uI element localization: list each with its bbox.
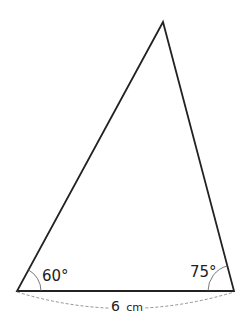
triangle-diagram: 60° 75° 6 cm xyxy=(0,0,248,336)
base-length-label: 6 cm xyxy=(111,298,143,314)
triangle xyxy=(17,22,234,291)
angle-label-right: 75° xyxy=(190,263,217,281)
angle-label-left: 60° xyxy=(42,267,69,285)
base-length-unit: cm xyxy=(126,301,143,314)
angle-arc-left xyxy=(28,270,41,291)
base-length-value: 6 xyxy=(111,298,120,314)
